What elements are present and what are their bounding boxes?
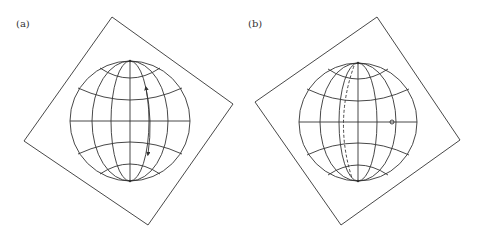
south-pole-point: [129, 180, 131, 182]
south-pole-point: [357, 180, 359, 182]
north-pole-point: [357, 62, 359, 64]
panel-b-label: (b): [248, 18, 262, 29]
diagram-canvas: [0, 0, 477, 237]
north-pole-point: [129, 60, 131, 62]
frame-square: [255, 17, 460, 225]
panel-b: [255, 17, 460, 225]
panel-a: [24, 17, 233, 225]
panel-a-label: (a): [16, 18, 30, 29]
figure: (a) (b): [0, 0, 477, 237]
